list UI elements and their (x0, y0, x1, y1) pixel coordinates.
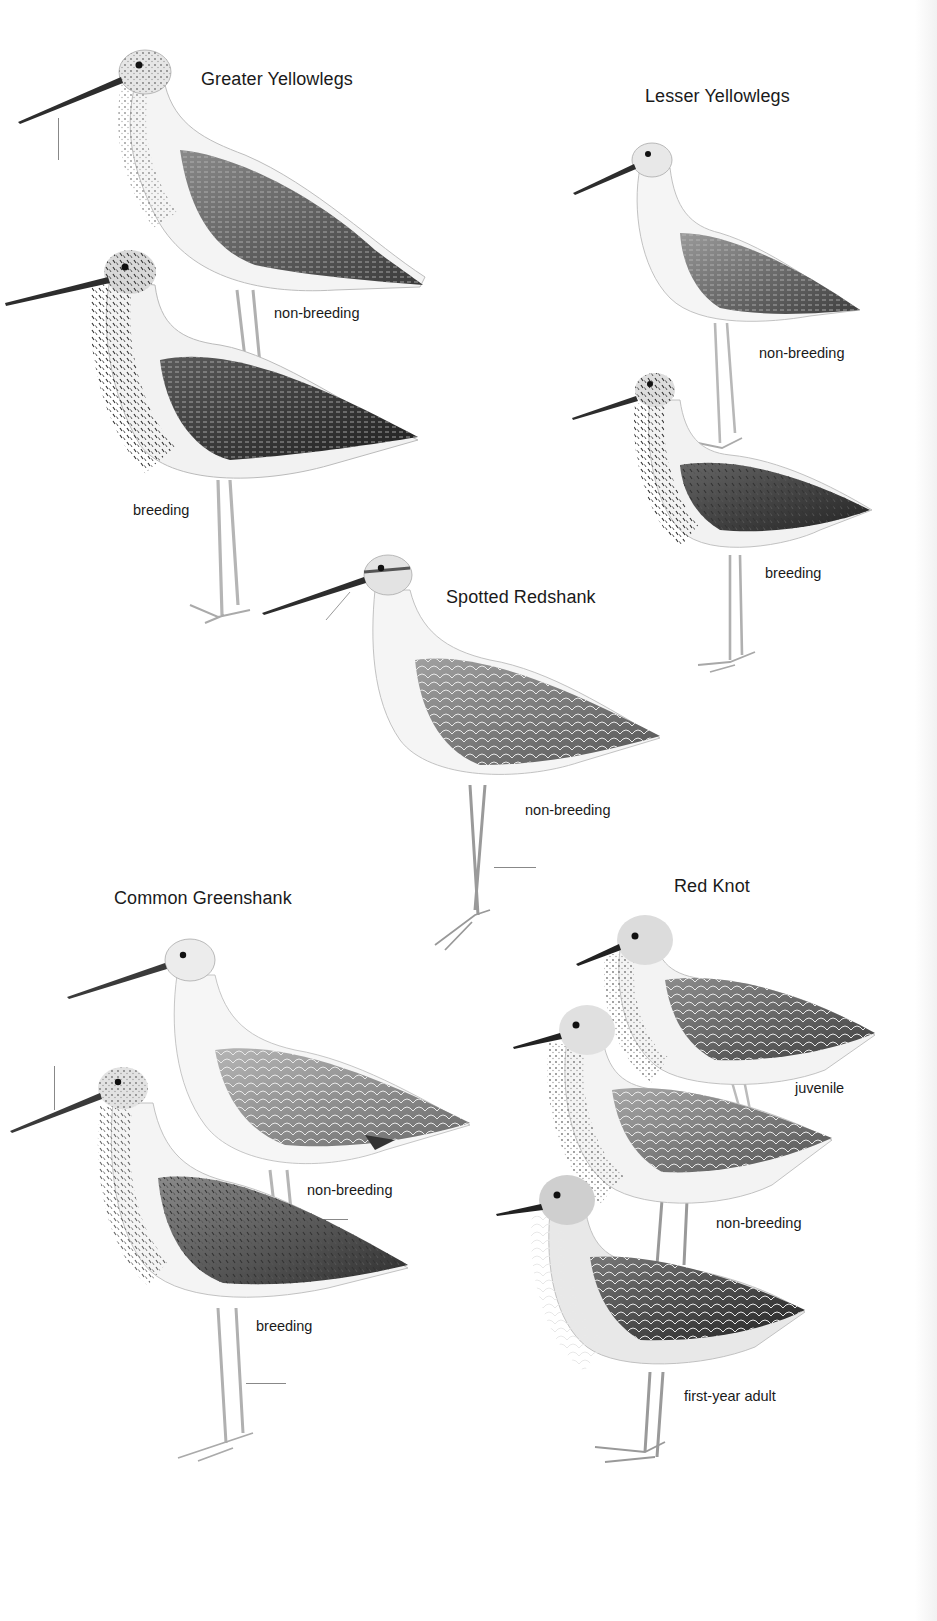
label-spotted-redshank-non-breeding: non-breeding (525, 802, 610, 818)
page-edge (915, 0, 937, 1621)
title-lesser-yellowlegs: Lesser Yellowlegs (645, 86, 790, 107)
common-greenshank-breeding-illustration (8, 1063, 413, 1463)
label-lesser-yellowlegs-non-breeding: non-breeding (759, 345, 844, 361)
title-red-knot: Red Knot (674, 876, 750, 897)
spotted-redshank-non-breeding-illustration (260, 550, 670, 955)
red-knot-first-year-adult-illustration (495, 1172, 810, 1472)
title-common-greenshank: Common Greenshank (114, 888, 292, 909)
label-greater-yellowlegs-breeding: breeding (133, 502, 189, 518)
label-red-knot-first-year-adult: first-year adult (684, 1388, 776, 1404)
label-lesser-yellowlegs-breeding: breeding (765, 565, 821, 581)
label-common-greenshank-breeding: breeding (256, 1318, 312, 1334)
